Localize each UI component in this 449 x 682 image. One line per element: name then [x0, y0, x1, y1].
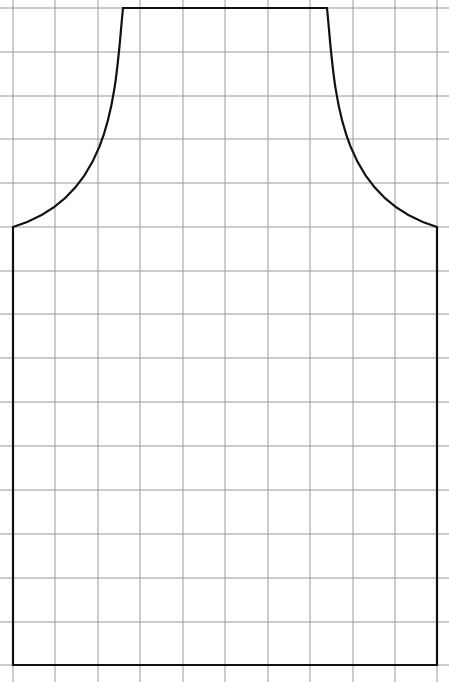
grid-lines — [0, 0, 449, 682]
pattern-svg — [0, 0, 449, 682]
apron-pattern-diagram — [0, 0, 449, 682]
